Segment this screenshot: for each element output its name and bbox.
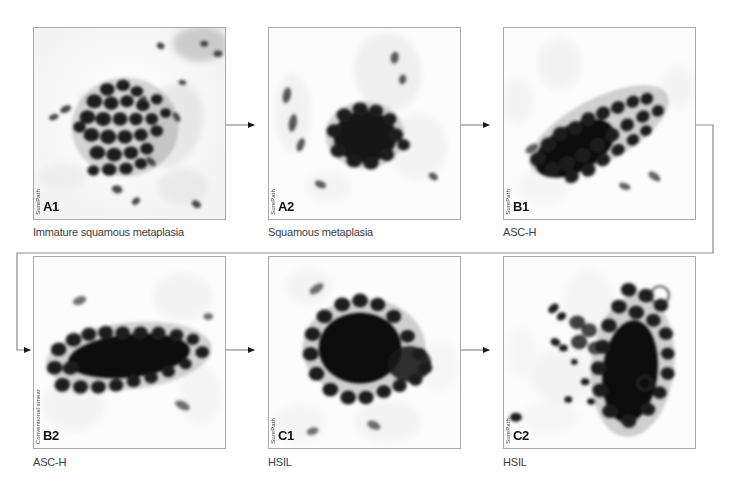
caption-a2: Squamous metaplasia xyxy=(268,226,373,238)
panel-label-b1: B1 xyxy=(513,199,529,214)
caption-c2: HSIL xyxy=(503,456,527,468)
watermark-a2: SurePath xyxy=(270,189,276,215)
panel-label-c1: C1 xyxy=(278,428,294,443)
panel-a1[interactable]: SurePath A1 xyxy=(33,27,226,220)
panel-a2[interactable]: SurePath A2 xyxy=(268,27,461,220)
micrograph-c1 xyxy=(269,257,460,448)
panel-label-a1: A1 xyxy=(43,199,59,214)
cytology-progression-figure: SurePath A1 Immature squamous metaplasia xyxy=(0,0,730,493)
watermark-c1: SurePath xyxy=(270,418,276,444)
caption-a1: Immature squamous metaplasia xyxy=(33,226,184,238)
panel-label-b2: B2 xyxy=(43,428,59,443)
watermark-a1: SurePath xyxy=(35,189,41,215)
micrograph-b2 xyxy=(34,257,225,448)
panel-b1[interactable]: SurePath B1 xyxy=(503,27,696,220)
caption-b2: ASC-H xyxy=(33,456,66,468)
caption-c1: HSIL xyxy=(268,456,292,468)
watermark-c2: SurePath xyxy=(505,418,511,444)
panel-c1[interactable]: SurePath C1 xyxy=(268,256,461,449)
panel-c2[interactable]: SurePath C2 xyxy=(503,256,696,449)
watermark-b2: Conventional smear xyxy=(35,389,41,444)
micrograph-a2 xyxy=(269,28,460,219)
caption-b1: ASC-H xyxy=(503,226,536,238)
micrograph-c2 xyxy=(504,257,695,448)
panel-label-a2: A2 xyxy=(278,199,294,214)
panel-label-c2: C2 xyxy=(513,428,529,443)
micrograph-b1 xyxy=(504,28,695,219)
micrograph-a1 xyxy=(34,28,225,219)
watermark-b1: SurePath xyxy=(505,189,511,215)
panel-b2[interactable]: Conventional smear B2 xyxy=(33,256,226,449)
